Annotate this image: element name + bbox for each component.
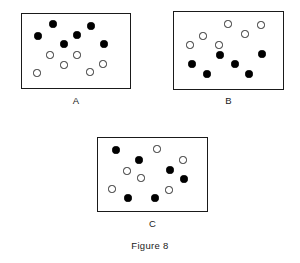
open-circle-token (46, 51, 53, 58)
panel-label-a: A (21, 95, 131, 106)
filled-circle-token (203, 70, 210, 77)
filled-circle-token (124, 194, 131, 201)
open-circle-token (60, 61, 67, 68)
filled-circle-token (60, 40, 67, 47)
open-circle-token (165, 186, 172, 193)
open-circle-token (33, 69, 40, 76)
filled-circle-token (216, 51, 223, 58)
filled-circle-token (87, 22, 94, 29)
open-circle-token (215, 41, 222, 48)
open-circle-token (108, 185, 115, 192)
filled-circle-token (258, 50, 265, 57)
filled-circle-token (135, 156, 142, 163)
filled-circle-token (188, 60, 195, 67)
open-circle-token (99, 60, 106, 67)
filled-circle-token (100, 40, 107, 47)
open-circle-token (179, 156, 186, 163)
open-circle-token (186, 41, 193, 48)
panel-label-b: B (173, 95, 284, 106)
panel-b (173, 11, 284, 90)
open-circle-token (123, 167, 130, 174)
open-circle-token (199, 32, 206, 39)
open-circle-token (137, 174, 144, 181)
open-circle-token (86, 68, 93, 75)
open-circle-token (224, 20, 231, 27)
open-circle-token (153, 145, 160, 152)
open-circle-token (257, 21, 264, 28)
filled-circle-token (245, 70, 252, 77)
filled-circle-token (231, 60, 238, 67)
filled-circle-token (112, 146, 119, 153)
open-circle-token (241, 30, 248, 37)
filled-circle-token (49, 20, 56, 27)
panel-label-c: C (97, 218, 208, 229)
filled-circle-token (34, 32, 41, 39)
open-circle-token (73, 51, 80, 58)
filled-circle-token (151, 194, 158, 201)
panel-a (21, 13, 131, 89)
filled-circle-token (166, 166, 173, 173)
filled-circle-token (73, 31, 80, 38)
panel-c (97, 137, 208, 212)
figure-caption: Figure 8 (0, 240, 300, 252)
figure-8-illustration: ABC (0, 0, 300, 263)
filled-circle-token (180, 175, 187, 182)
